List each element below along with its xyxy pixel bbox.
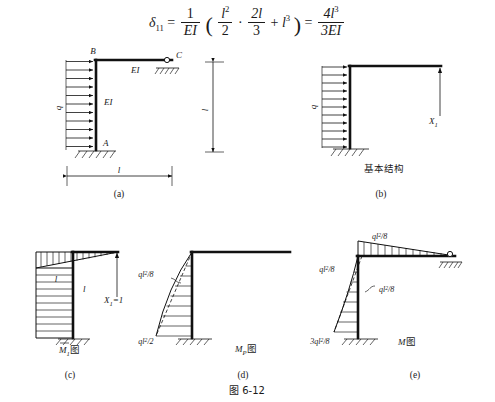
- sublabel-a: (a): [114, 189, 125, 200]
- fixed-support-e: [342, 339, 378, 345]
- beam-moment-triangle-e: [358, 241, 455, 256]
- fixed-support-d: [176, 339, 212, 345]
- sublabel-b: (b): [375, 189, 386, 200]
- label-joint-B: B: [90, 46, 96, 56]
- panel-c: l l X1=1 M1图 (c): [36, 252, 123, 381]
- label-m-base-value: 3ql2/8: [309, 337, 329, 346]
- label-redundant-X1: X1: [428, 116, 438, 128]
- label-mp-top-value: ql2/8: [138, 270, 153, 279]
- label-load-q: q: [53, 105, 63, 110]
- label-dim-horizontal: l: [118, 165, 121, 175]
- distributed-load-q: [66, 60, 93, 150]
- diagram-title-text: M1图: [58, 344, 80, 357]
- dimension-vertical-l: [205, 62, 224, 152]
- panel-a: B A C q EI EI l l (a): [53, 46, 224, 200]
- panel-d: ql2/8 ql2/2 MP图 (d): [138, 252, 290, 381]
- label-m-beam-top: ql2/8: [372, 232, 387, 241]
- label-beam-ordinate: l: [83, 284, 86, 294]
- diagram-title-m1bar: M1图: [58, 343, 80, 357]
- panel-b: q X1 基本结构 (b): [308, 66, 441, 200]
- label-column-ordinate: l: [55, 274, 58, 284]
- label-m-mid-right: ql2/8: [379, 285, 394, 294]
- fixed-support-A: [75, 151, 116, 158]
- label-stiffness-column: EI: [103, 97, 113, 107]
- chord-dashed-line: [156, 252, 192, 336]
- beam-moment-triangle: [36, 252, 118, 268]
- label-mp-base-value: ql2/2: [138, 337, 153, 346]
- label-m-corner-left: ql2/8: [319, 265, 334, 274]
- label-joint-A: A: [102, 138, 109, 148]
- diagram-title-mp: MP图: [234, 343, 257, 356]
- sublabel-c: (c): [65, 370, 76, 381]
- figure-diagrams: B A C q EI EI l l (a): [0, 0, 495, 402]
- diagram-title-m: M图: [397, 336, 416, 347]
- label-unit-force: X1=1: [103, 295, 123, 307]
- label-load-q: q: [308, 104, 318, 109]
- label-joint-C: C: [176, 50, 183, 60]
- sublabel-d: (d): [237, 370, 248, 381]
- sublabel-e: (e): [410, 370, 421, 381]
- column-moment-parabola-e: [334, 256, 358, 332]
- panel-e: ql2/8 ql2/8 ql2/8 3ql2/8 M图 (e): [309, 232, 462, 381]
- label-stiffness-beam: EI: [130, 65, 140, 75]
- leader-line-e: [365, 286, 375, 292]
- fixed-support-base: [331, 149, 369, 156]
- distributed-load-q: [322, 66, 347, 148]
- figure-caption: 图 6-12: [229, 385, 265, 396]
- label-basic-structure: 基本结构: [364, 163, 404, 174]
- label-dim-vertical: l: [200, 108, 210, 111]
